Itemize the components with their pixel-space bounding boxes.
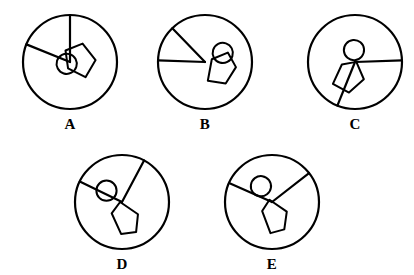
figure-label-b: B	[152, 117, 258, 132]
inner-group	[80, 161, 144, 234]
radial-line-long	[272, 169, 309, 207]
pentagon-shape	[259, 199, 288, 235]
inner-group	[312, 26, 402, 115]
figure-a[interactable]: A	[17, 9, 123, 141]
figure-b[interactable]: B	[152, 9, 258, 141]
figure-label-a: A	[17, 117, 123, 132]
small-circle-shape	[210, 40, 235, 65]
figure-board: ABCDE	[0, 0, 414, 275]
inner-group	[24, 14, 101, 94]
figure-a-drawing	[17, 9, 123, 115]
figure-b-drawing	[152, 9, 258, 115]
figure-label-c: C	[302, 117, 408, 132]
figure-d[interactable]: D	[69, 149, 175, 275]
radial-line-long	[166, 28, 212, 62]
figure-c[interactable]: C	[302, 9, 408, 141]
figure-label-e: E	[219, 257, 325, 272]
radial-line-short	[158, 48, 205, 74]
small-circle-shape	[340, 36, 368, 64]
radial-line-long	[122, 161, 144, 202]
pentagon-shape	[112, 202, 138, 234]
figure-d-drawing	[69, 149, 175, 255]
figure-label-d: D	[69, 257, 175, 272]
inner-group	[157, 25, 242, 88]
pentagon-shape	[60, 40, 100, 82]
figure-c-drawing	[302, 9, 408, 115]
figure-e[interactable]: E	[219, 149, 325, 275]
pentagon-shape	[205, 49, 239, 88]
figure-e-drawing	[219, 149, 325, 255]
